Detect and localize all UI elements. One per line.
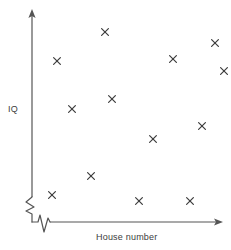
y-axis-label: IQ [8, 104, 18, 114]
data-point-group [49, 29, 228, 205]
data-point-marker [54, 58, 61, 65]
y-axis-break-icon [26, 197, 34, 222]
data-point-marker [49, 192, 56, 199]
data-point-marker [212, 40, 219, 47]
data-point-marker [170, 56, 177, 63]
data-point-marker [69, 106, 76, 113]
data-point-marker [150, 136, 157, 143]
plot-canvas [0, 0, 231, 250]
data-point-marker [109, 96, 116, 103]
data-point-marker [221, 68, 228, 75]
data-point-marker [187, 198, 194, 205]
scatter-plot-figure: IQ House number [0, 0, 231, 250]
data-point-marker [136, 198, 143, 205]
data-point-marker [88, 173, 95, 180]
x-axis-label: House number [96, 232, 157, 242]
data-point-marker [102, 29, 109, 36]
x-axis-break-icon [32, 215, 50, 232]
data-point-marker [199, 123, 206, 130]
